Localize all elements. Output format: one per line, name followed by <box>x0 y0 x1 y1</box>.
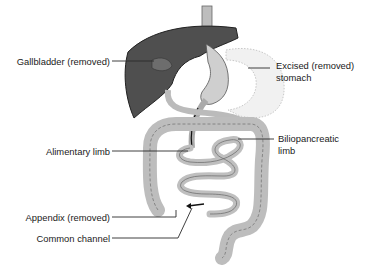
arrowhead-icon <box>186 203 191 209</box>
label-gallbladder: Gallbladder (removed) <box>17 56 110 67</box>
excised-stomach <box>226 48 284 117</box>
label-biliopancreatic-line1: Biliopancreatic <box>278 133 339 144</box>
label-biliopancreatic-line2: limb <box>278 145 295 156</box>
label-alimentary-limb: Alimentary limb <box>46 146 110 157</box>
small-bowel-loops <box>180 140 241 214</box>
label-appendix: Appendix (removed) <box>26 212 110 223</box>
label-common-channel: Common channel <box>37 233 110 244</box>
label-stomach-line1: Excised (removed) <box>276 60 354 71</box>
label-stomach-line2: stomach <box>276 72 311 83</box>
leader-appendix <box>112 210 176 217</box>
